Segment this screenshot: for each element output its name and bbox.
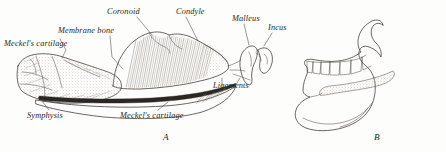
figure-illustration [0, 0, 446, 152]
label-membrane-bone: Membrane bone [58, 27, 114, 35]
label-ligaments: Ligaments [213, 82, 249, 90]
anatomical-figure: Coronoid Condyle Malleus Incus Membrane … [0, 0, 446, 152]
label-incus: Incus [268, 24, 287, 32]
label-coronoid: Coronoid [107, 8, 140, 16]
malleus-incus-ossicles [240, 46, 272, 85]
label-meckels-cartilage-top: Meckel's cartilage [4, 40, 68, 48]
label-condyle: Condyle [176, 8, 205, 16]
label-malleus: Malleus [232, 15, 260, 23]
mandible-lower-contour-b [303, 103, 372, 124]
label-symphysis: Symphysis [27, 112, 63, 120]
teeth-row-b [306, 55, 371, 75]
mandible-angle-contour-b [340, 108, 368, 127]
shaded-canal-region-b [310, 66, 400, 100]
mandible-body-symphysis [14, 52, 126, 106]
mandible-outline-b [295, 20, 383, 131]
figure-a-group [14, 17, 272, 119]
figure-caption-b: B [374, 133, 380, 142]
ligament-lines [228, 60, 250, 80]
label-meckels-cartilage-bottom: Meckel's cartilage [120, 112, 184, 120]
figure-caption-a: A [163, 133, 169, 142]
body-stipple [14, 52, 126, 106]
figure-b-group [295, 20, 400, 131]
